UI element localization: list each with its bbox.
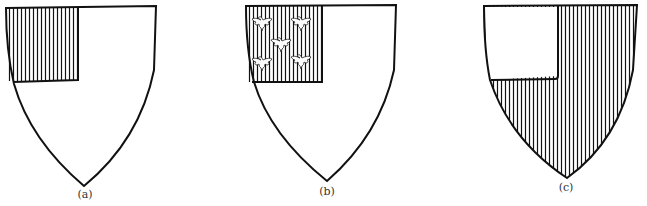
caption-a: (a) [77,188,92,201]
shield-b [246,5,396,181]
heraldry-figure [0,0,647,206]
shield-c [480,0,640,185]
caption-c: (c) [559,181,574,194]
caption-b: (b) [319,185,335,198]
canton-hatched [7,8,78,81]
shield-a [6,6,156,186]
